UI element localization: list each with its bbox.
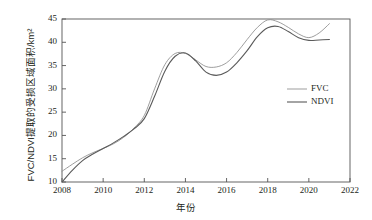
y-tick-label: 40 <box>35 36 57 46</box>
x-tick-label: 2022 <box>330 185 370 195</box>
plot-frame <box>62 19 350 182</box>
y-tick-label: 20 <box>35 129 57 139</box>
x-tick-label: 2018 <box>248 185 288 195</box>
x-axis-title: 年份 <box>0 200 372 214</box>
x-tick-label: 2008 <box>42 185 82 195</box>
legend-sample-lines <box>287 89 307 102</box>
x-tick-label: 2012 <box>124 185 164 195</box>
x-tick-label: 2016 <box>207 185 247 195</box>
y-tick-label: 15 <box>35 153 57 163</box>
series-line-ndvi <box>62 26 329 182</box>
y-tick-label: 45 <box>35 13 57 23</box>
x-axis-ticks <box>62 178 350 182</box>
legend-label-fvc: FVC <box>311 83 329 93</box>
x-tick-label: 2014 <box>165 185 205 195</box>
chart-figure: FVC/NDVI提取的受损区域面积/km² 年份 101520253035404… <box>0 0 372 220</box>
y-axis-ticks <box>62 19 66 182</box>
y-tick-label: 25 <box>35 106 57 116</box>
legend-label-ndvi: NDVI <box>311 96 334 106</box>
x-tick-label: 2020 <box>289 185 329 195</box>
x-tick-label: 2010 <box>83 185 123 195</box>
y-tick-label: 30 <box>35 83 57 93</box>
chart-series-group <box>62 20 329 182</box>
y-tick-label: 35 <box>35 60 57 70</box>
